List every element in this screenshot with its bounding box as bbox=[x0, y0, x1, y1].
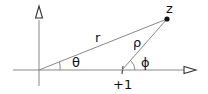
point-z bbox=[164, 16, 169, 21]
complex-plane-diagram: z r ρ θ ϕ +1 bbox=[0, 0, 208, 94]
phi-arc bbox=[131, 61, 136, 71]
real-axis-arrow-icon bbox=[184, 67, 196, 74]
theta-arc bbox=[60, 62, 61, 70]
label-rho: ρ bbox=[133, 35, 141, 50]
label-theta: θ bbox=[72, 55, 80, 70]
label-phi: ϕ bbox=[141, 55, 150, 70]
imaginary-axis-arrow-icon bbox=[36, 6, 43, 18]
label-z: z bbox=[166, 1, 173, 16]
label-plus-one: +1 bbox=[113, 77, 132, 92]
label-r: r bbox=[95, 30, 101, 45]
